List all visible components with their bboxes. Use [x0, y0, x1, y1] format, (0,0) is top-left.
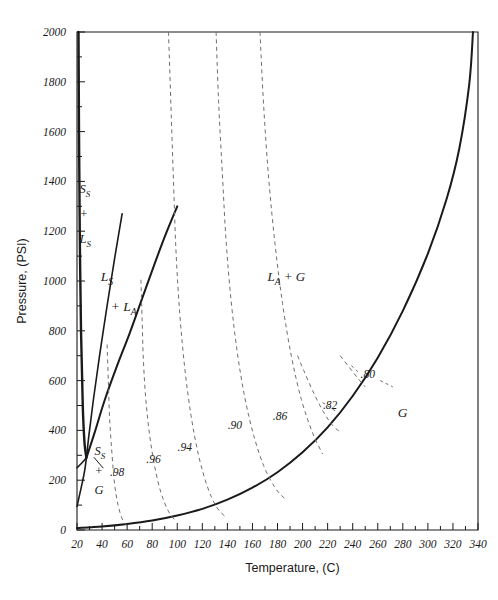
iso-curve-label: .94	[178, 441, 193, 453]
phase-diagram-figure: 2040608010012014016018020022024026028030…	[0, 0, 498, 600]
region-label: +	[80, 207, 88, 221]
curve-Ls-La-boundary	[86, 206, 177, 457]
region-label: SS	[80, 182, 91, 199]
iso-curve-label: .82	[323, 399, 338, 411]
y-tick-label: 400	[49, 424, 67, 436]
curve-Ss-G-lower-curve	[77, 214, 122, 507]
y-tick-label: 2000	[43, 26, 66, 38]
x-tick-label: 40	[96, 538, 108, 550]
label-leader-lines	[94, 366, 393, 469]
y-tick-label: 1400	[43, 175, 66, 187]
y-tick-label: 1000	[43, 275, 66, 287]
region-label: + LA	[111, 299, 137, 317]
iso-concentration-curves: .98.96.94.90.86.82.80	[107, 32, 375, 528]
region-label: SS	[95, 444, 106, 461]
x-tick-label: 80	[146, 538, 158, 550]
x-tick-label: 340	[468, 538, 487, 550]
region-label: LS	[100, 269, 114, 287]
iso-curve-label: .90	[228, 419, 243, 431]
iso-curve-label: .98	[110, 466, 125, 478]
x-tick-label: 180	[269, 538, 287, 550]
iso-curve-label: .80	[361, 368, 376, 380]
y-tick-label: 200	[49, 474, 67, 486]
x-tick-label: 220	[319, 538, 337, 550]
iso-curve-0_9	[216, 32, 285, 499]
iso-curve-label: .86	[273, 410, 288, 422]
region-label: G	[95, 483, 104, 497]
iso-curve-label: .96	[146, 453, 161, 465]
y-tick-label: 1200	[43, 225, 66, 237]
x-tick-label: 260	[369, 538, 387, 550]
x-tick-label: 320	[443, 538, 462, 550]
x-tick-label: 240	[344, 538, 362, 550]
y-axis-title: Pressure, (PSI)	[15, 238, 29, 323]
region-label: LA + G	[266, 269, 305, 287]
x-tick-label: 140	[219, 538, 237, 550]
x-tick-label: 120	[194, 538, 212, 550]
plot-canvas: 2040608010012014016018020022024026028030…	[0, 0, 498, 600]
region-label: +	[95, 464, 103, 478]
x-tick-label: 300	[418, 538, 437, 550]
x-tick-label: 60	[121, 538, 133, 550]
iso-curve-0_82	[298, 356, 342, 433]
x-axis-title: Temperature, (C)	[245, 561, 339, 575]
y-tick-label: 0	[60, 524, 66, 536]
y-tick-label: 600	[49, 375, 67, 387]
x-tick-label: 20	[71, 538, 83, 550]
iso-curve-0_96	[141, 280, 176, 522]
x-tick-label: 100	[169, 538, 187, 550]
y-tick-labels: 0200400600800100012001400160018002000	[43, 26, 66, 536]
iso-curve-0_98	[107, 345, 130, 528]
x-tick-label: 200	[294, 538, 312, 550]
y-tick-label: 800	[49, 325, 67, 337]
y-tick-label: 1800	[43, 76, 66, 88]
region-label: G	[398, 405, 408, 420]
x-tick-labels: 2040608010012014016018020022024026028030…	[71, 538, 487, 550]
x-tick-label: 280	[394, 538, 412, 550]
y-tick-label: 1600	[43, 126, 66, 138]
x-tick-label: 160	[244, 538, 262, 550]
